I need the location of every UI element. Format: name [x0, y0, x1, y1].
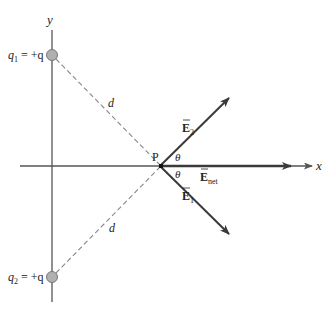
x-axis-label: x	[315, 158, 322, 173]
point-p-marker	[159, 164, 163, 168]
charge-q1-label: q1 = +q	[8, 48, 44, 64]
charge-q2	[47, 272, 58, 283]
vector-enet-label: Enet	[200, 169, 219, 186]
angle-theta-lower: θ	[175, 168, 181, 180]
svg-text:E2: E2	[182, 121, 194, 137]
distance-label-lower: d	[109, 221, 116, 235]
vector-e1	[161, 167, 229, 234]
distance-line-q1-p	[56, 59, 160, 165]
angle-theta-upper: θ	[175, 151, 181, 163]
charge-q2-label: q2 = +q	[8, 270, 44, 286]
vector-e2	[161, 98, 229, 165]
vector-e2-label: E2	[182, 120, 194, 137]
distance-label-upper: d	[108, 96, 115, 110]
vector-e1-label: E1	[182, 188, 194, 205]
svg-text:Enet: Enet	[200, 170, 219, 186]
electric-field-diagram: y x d d q1 = +q q2 = +q P θ θ E2 Enet E1	[0, 0, 330, 312]
point-p-label: P	[152, 150, 159, 164]
charge-q1	[47, 50, 58, 61]
svg-text:E1: E1	[182, 189, 194, 205]
y-axis-label: y	[45, 12, 53, 27]
distance-line-q2-p	[56, 167, 160, 273]
